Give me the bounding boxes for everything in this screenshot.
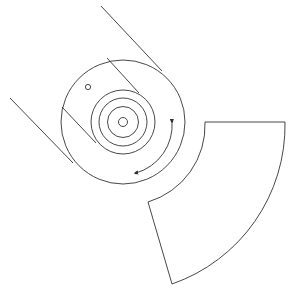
- main-circle: [61, 60, 185, 184]
- arrow-tip-top: [171, 120, 173, 122]
- ring-center: [119, 118, 128, 127]
- ring-middle: [99, 98, 147, 146]
- small-hole: [85, 84, 90, 89]
- arrow-tip-bottom: [135, 172, 137, 174]
- ring-outer: [91, 90, 155, 154]
- diagram-canvas: [0, 0, 295, 293]
- tangent-line-left: [10, 98, 73, 163]
- chord-top: [107, 58, 139, 93]
- annular-sector: [148, 122, 285, 284]
- ring-inner: [108, 107, 139, 138]
